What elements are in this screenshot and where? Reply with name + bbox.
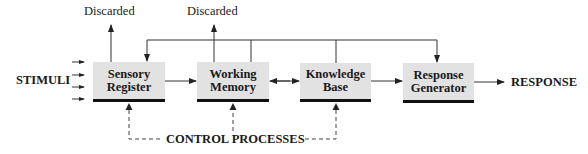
response-label: RESPONSE bbox=[511, 75, 577, 90]
feedback-lines bbox=[147, 40, 437, 63]
stimuli-label: STIMULI bbox=[16, 73, 70, 88]
discarded-label-working: Discarded bbox=[187, 4, 238, 19]
discarded-label-sensory: Discarded bbox=[84, 4, 135, 19]
working-memory-box: Working Memory bbox=[197, 62, 269, 102]
box-label-line1: Working bbox=[209, 68, 256, 81]
box-label-line2: Generator bbox=[411, 82, 467, 95]
box-label-line2: Memory bbox=[209, 81, 256, 94]
information-processing-diagram: Discarded Discarded STIMULI RESPONSE CON… bbox=[0, 0, 588, 154]
box-label-line2: Register bbox=[107, 81, 151, 94]
box-label-line2: Base bbox=[306, 81, 366, 94]
box-label-line1: Sensory bbox=[107, 68, 151, 81]
control-arrowheads bbox=[126, 103, 340, 110]
box-label-line1: Response bbox=[411, 69, 467, 82]
connectors bbox=[0, 0, 588, 154]
knowledge-base-box: Knowledge Base bbox=[300, 63, 371, 102]
stimuli-arrows bbox=[72, 62, 84, 99]
sensory-register-box: Sensory Register bbox=[93, 62, 165, 102]
control-processes-label: CONTROL PROCESSES bbox=[166, 132, 305, 147]
response-generator-box: Response Generator bbox=[403, 63, 474, 103]
discarded-arrows bbox=[111, 25, 214, 62]
